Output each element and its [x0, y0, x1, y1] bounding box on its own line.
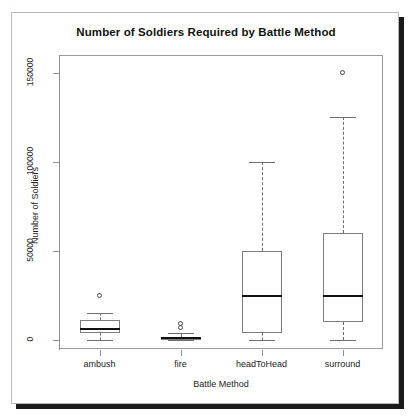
x-tick-mark [343, 350, 344, 356]
x-tick-label-surround: surround [325, 359, 361, 369]
y-tick-mark [53, 73, 59, 74]
chart-title: Number of Soldiers Required by Battle Me… [12, 26, 400, 38]
x-tick-mark [181, 350, 182, 356]
cap-upper [249, 162, 275, 163]
truncated-caption-strip: plot of chunk unnamed-chunk-7 [0, 0, 414, 11]
cap-lower [249, 340, 275, 341]
y-tick-mark [53, 340, 59, 341]
x-axis-title: Battle Method [59, 379, 383, 389]
x-tick-label-headToHead: headToHead [236, 359, 287, 369]
box-iqr [323, 233, 363, 322]
box-iqr [242, 251, 282, 333]
median-line [161, 337, 201, 339]
x-tick-label-ambush: ambush [83, 359, 115, 369]
y-tick-mark [53, 162, 59, 163]
y-axis-line [59, 55, 60, 350]
whisker-upper [100, 313, 102, 320]
whisker-lower [100, 333, 102, 340]
whisker-lower [343, 322, 345, 340]
cap-upper [330, 117, 356, 118]
whisker-upper [343, 117, 345, 233]
x-tick-mark [262, 350, 263, 356]
cap-upper [168, 333, 194, 334]
median-line [242, 295, 282, 297]
x-tick-label-fire: fire [174, 359, 187, 369]
whisker-lower [262, 333, 264, 340]
cap-upper [87, 313, 113, 314]
figure-shadow-bottom [16, 404, 404, 409]
x-tick-mark [100, 350, 101, 356]
truncated-caption-text: plot of chunk unnamed-chunk-7 [10, 0, 145, 1]
figure-card: Number of Soldiers Required by Battle Me… [11, 12, 399, 404]
outlier-point [178, 321, 183, 326]
cap-lower [168, 340, 194, 341]
cap-lower [87, 340, 113, 341]
outlier-point [97, 293, 102, 298]
median-line [323, 295, 363, 297]
cap-lower [330, 340, 356, 341]
median-line [80, 328, 120, 330]
y-tick-label: 150000 [25, 54, 35, 90]
y-tick-label: 0 [25, 321, 35, 357]
y-tick-mark [53, 251, 59, 252]
y-axis-title: Number of Soldiers [30, 167, 40, 244]
whisker-upper [262, 162, 264, 251]
figure-shadow-right [399, 17, 404, 404]
